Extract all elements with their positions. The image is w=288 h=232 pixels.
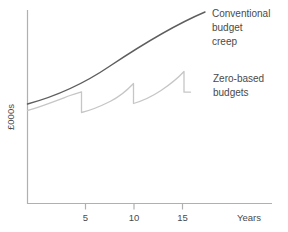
- series-line-conventional-budget-creep: [28, 12, 206, 104]
- x-tick-label-5: 5: [83, 212, 88, 223]
- x-tick-label-10: 10: [129, 212, 140, 223]
- annotation-conventional-line1: Conventional: [212, 8, 270, 19]
- annotation-conventional-line2: budget: [212, 22, 243, 33]
- y-axis-label: £000s: [5, 104, 16, 130]
- chart-container: 5 10 15 Years £000s Conventional budget …: [0, 0, 288, 232]
- annotation-conventional-line3: creep: [212, 36, 237, 47]
- annotation-zero-based-line1: Zero-based: [213, 73, 264, 84]
- x-axis-label: Years: [237, 212, 261, 223]
- budget-creep-line-chart: 5 10 15 Years £000s Conventional budget …: [0, 0, 288, 232]
- annotation-zero-based-line2: budgets: [213, 87, 249, 98]
- series-line-zero-based-budgets: [28, 72, 191, 113]
- x-tick-label-15: 15: [177, 212, 188, 223]
